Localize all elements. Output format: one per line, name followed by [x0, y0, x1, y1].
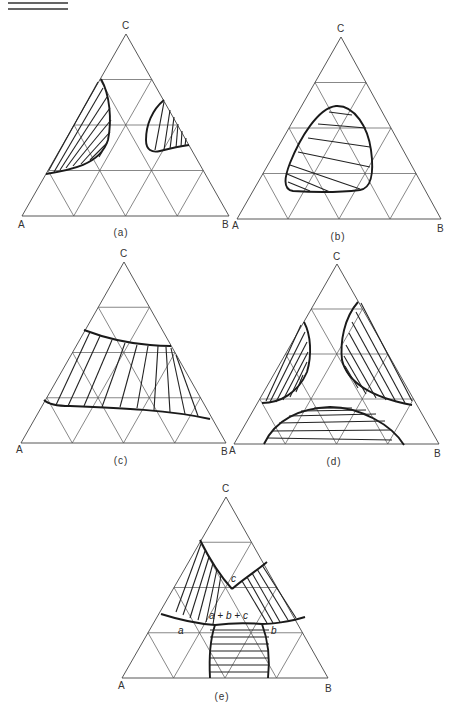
- panel-caption: (b): [330, 231, 345, 242]
- panel-caption: (c): [114, 455, 129, 466]
- phase-label-c: c: [231, 573, 236, 584]
- tie-line: [66, 108, 110, 168]
- ternary-panel-d: ABC(d): [229, 251, 441, 467]
- grid-line: [74, 80, 152, 217]
- vertex-label-a: A: [232, 220, 239, 231]
- vertex-label-b: B: [437, 223, 444, 234]
- grid-line: [177, 171, 203, 217]
- ternary-panel-b: ABC(b): [232, 23, 444, 242]
- vertex-label-a: A: [18, 219, 25, 230]
- tie-line: [308, 138, 370, 147]
- vertex-label-b: B: [434, 448, 441, 459]
- vertex-label-a: A: [229, 445, 236, 456]
- tie-line: [166, 347, 170, 412]
- tie-line: [49, 82, 98, 170]
- three-phase-label: a + b + c: [209, 610, 248, 621]
- tie-line: [272, 430, 391, 431]
- grid-line: [315, 83, 390, 220]
- tie-line: [346, 345, 376, 398]
- vertex-label-a: A: [16, 444, 23, 455]
- phase-boundary: [232, 562, 267, 589]
- vertex-label-c: C: [122, 20, 129, 31]
- ternary-panel-c: ABC(c): [16, 248, 228, 466]
- panel-caption: (d): [326, 456, 341, 467]
- grid-line: [72, 307, 149, 443]
- grid-line: [263, 174, 288, 220]
- phase-boundary: [262, 617, 305, 624]
- tie-line: [290, 165, 360, 189]
- grid-line: [288, 83, 366, 220]
- tie-line: [290, 362, 307, 397]
- grid-line: [175, 398, 201, 443]
- tie-line: [68, 336, 100, 406]
- grid-line: [390, 174, 416, 220]
- vertex-label-c: C: [120, 248, 127, 259]
- tie-line: [247, 577, 273, 623]
- panel-caption: (e): [214, 691, 229, 702]
- phase-label-a: a: [178, 625, 184, 636]
- grid-line: [48, 171, 74, 217]
- grid-line: [100, 80, 177, 217]
- tie-line: [137, 346, 148, 408]
- phase-boundary: [215, 623, 262, 625]
- vertex-label-c: C: [333, 251, 340, 262]
- grid-line: [148, 633, 174, 678]
- vertex-label-b: B: [222, 219, 229, 230]
- ternary-panel-a: ABC(a): [18, 20, 229, 238]
- phase-label-b: b: [271, 625, 277, 636]
- grid-line: [277, 633, 303, 678]
- ternary-figure: ABC(a)ABC(b)ABC(c)ABC(d)ABC(e)ca + b + c…: [0, 0, 464, 715]
- ternary-panel-e: ABC(e)ca + b + cab: [118, 483, 332, 702]
- vertex-label-b: B: [221, 446, 228, 457]
- tie-line: [181, 131, 182, 147]
- grid-line: [388, 399, 414, 444]
- vertex-label-c: C: [337, 23, 344, 34]
- tie-line: [170, 117, 174, 149]
- vertex-label-c: C: [222, 483, 229, 494]
- grid-line: [98, 307, 175, 443]
- phase-boundary: [342, 302, 412, 405]
- tie-line: [279, 421, 385, 423]
- tie-line: [262, 565, 296, 618]
- tie-line: [81, 132, 110, 164]
- tie-line: [352, 322, 396, 402]
- tie-line: [268, 438, 392, 440]
- vertex-label-b: B: [325, 683, 332, 694]
- tie-line: [154, 346, 158, 410]
- tie-line: [84, 340, 112, 406]
- vertex-label-a: A: [118, 680, 125, 691]
- tie-line: [257, 569, 288, 620]
- phase-boundary: [200, 540, 232, 589]
- tie-line: [252, 573, 280, 622]
- panel-caption: (a): [113, 227, 128, 238]
